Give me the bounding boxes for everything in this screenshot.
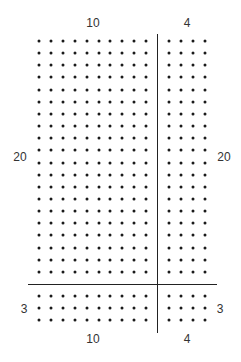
dot-upper-left <box>109 246 112 249</box>
dot-upper-right <box>168 173 171 176</box>
dot-upper-left <box>85 52 88 55</box>
dot-upper-right <box>168 246 171 249</box>
dot-upper-left <box>61 40 64 43</box>
dot-upper-left <box>85 270 88 273</box>
dot-upper-right <box>204 222 207 225</box>
dot-upper-right <box>168 40 171 43</box>
dot-upper-left <box>97 210 100 213</box>
dot-upper-right <box>180 258 183 261</box>
dot-upper-left <box>85 40 88 43</box>
dot-upper-left <box>145 76 148 79</box>
dot-upper-left <box>145 222 148 225</box>
dot-upper-right <box>192 88 195 91</box>
dot-upper-right <box>192 270 195 273</box>
label-top-left-columns: 10 <box>86 17 99 29</box>
dot-upper-left <box>49 234 52 237</box>
dot-upper-left <box>121 222 124 225</box>
dot-lower-left <box>85 307 88 310</box>
dot-upper-left <box>109 64 112 67</box>
dot-lower-left <box>73 295 76 298</box>
dot-upper-left <box>85 258 88 261</box>
dot-upper-left <box>38 270 41 273</box>
dot-upper-right <box>204 64 207 67</box>
dot-upper-left <box>133 112 136 115</box>
dot-upper-left <box>133 222 136 225</box>
dot-lower-left <box>109 295 112 298</box>
dot-upper-left <box>73 64 76 67</box>
dot-upper-left <box>133 161 136 164</box>
dot-upper-left <box>97 88 100 91</box>
dot-upper-right <box>204 161 207 164</box>
dot-upper-left <box>109 100 112 103</box>
dot-upper-left <box>73 185 76 188</box>
dot-upper-left <box>85 88 88 91</box>
dot-upper-left <box>61 76 64 79</box>
dot-upper-left <box>49 88 52 91</box>
dot-upper-right <box>204 246 207 249</box>
dot-upper-left <box>85 112 88 115</box>
dot-upper-right <box>204 234 207 237</box>
dot-upper-right <box>204 173 207 176</box>
dot-upper-left <box>121 270 124 273</box>
dot-lower-left <box>97 295 100 298</box>
dot-lower-left <box>109 319 112 322</box>
dot-lower-right <box>204 295 207 298</box>
dot-upper-right <box>192 185 195 188</box>
dot-upper-left <box>97 270 100 273</box>
dot-upper-left <box>109 197 112 200</box>
dot-upper-left <box>109 52 112 55</box>
dot-upper-left <box>97 125 100 128</box>
dot-lower-left <box>97 319 100 322</box>
dot-upper-left <box>38 222 41 225</box>
dot-upper-left <box>145 258 148 261</box>
dot-upper-right <box>204 88 207 91</box>
dot-upper-left <box>38 125 41 128</box>
dot-upper-right <box>168 100 171 103</box>
dot-upper-left <box>49 173 52 176</box>
dot-upper-left <box>38 161 41 164</box>
dot-upper-left <box>85 137 88 140</box>
dot-lower-right <box>168 319 171 322</box>
dot-upper-right <box>180 270 183 273</box>
dot-upper-right <box>192 197 195 200</box>
dot-upper-right <box>180 125 183 128</box>
dot-upper-right <box>204 52 207 55</box>
dot-upper-left <box>109 76 112 79</box>
dot-upper-left <box>61 246 64 249</box>
dot-upper-left <box>133 246 136 249</box>
dot-upper-left <box>133 185 136 188</box>
dot-upper-left <box>85 125 88 128</box>
dot-upper-left <box>49 197 52 200</box>
dot-upper-left <box>97 52 100 55</box>
dot-lower-right <box>192 319 195 322</box>
dot-upper-left <box>85 197 88 200</box>
dot-upper-left <box>85 161 88 164</box>
dot-lower-left <box>49 307 52 310</box>
dot-upper-left <box>145 173 148 176</box>
dot-upper-right <box>204 185 207 188</box>
dot-lower-right <box>180 307 183 310</box>
dot-upper-left <box>109 258 112 261</box>
dot-lower-right <box>192 307 195 310</box>
dot-upper-right <box>192 40 195 43</box>
dot-upper-left <box>73 88 76 91</box>
dot-lower-right <box>168 307 171 310</box>
dot-upper-left <box>73 125 76 128</box>
dot-upper-left <box>73 52 76 55</box>
dot-upper-left <box>121 161 124 164</box>
dot-upper-right <box>180 40 183 43</box>
dot-upper-left <box>97 76 100 79</box>
dot-upper-right <box>180 161 183 164</box>
dot-upper-right <box>180 210 183 213</box>
dot-upper-right <box>168 185 171 188</box>
dot-upper-left <box>49 222 52 225</box>
dot-upper-right <box>168 234 171 237</box>
dot-lower-left <box>85 319 88 322</box>
dot-upper-right <box>168 64 171 67</box>
dot-upper-left <box>38 246 41 249</box>
dot-upper-right <box>204 258 207 261</box>
dot-lower-right <box>180 319 183 322</box>
dot-upper-left <box>49 112 52 115</box>
dot-upper-left <box>145 185 148 188</box>
dot-upper-right <box>204 100 207 103</box>
